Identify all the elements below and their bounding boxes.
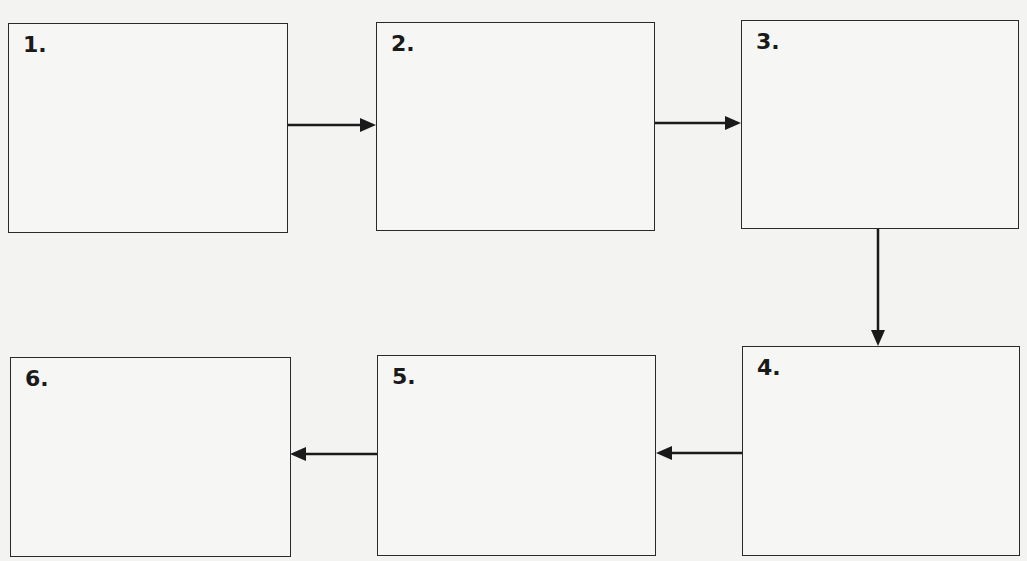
step-box-1: 1. <box>8 23 288 233</box>
step-number: 3. <box>756 29 780 54</box>
step-box-4: 4. <box>742 346 1020 556</box>
step-box-5: 5. <box>377 355 656 556</box>
step-number: 4. <box>757 355 781 380</box>
step-box-2: 2. <box>376 22 655 231</box>
step-number: 6. <box>25 366 49 391</box>
step-number: 5. <box>392 364 416 389</box>
step-number: 1. <box>23 32 47 57</box>
step-number: 2. <box>391 31 415 56</box>
step-box-6: 6. <box>10 357 291 557</box>
step-box-3: 3. <box>741 20 1019 229</box>
